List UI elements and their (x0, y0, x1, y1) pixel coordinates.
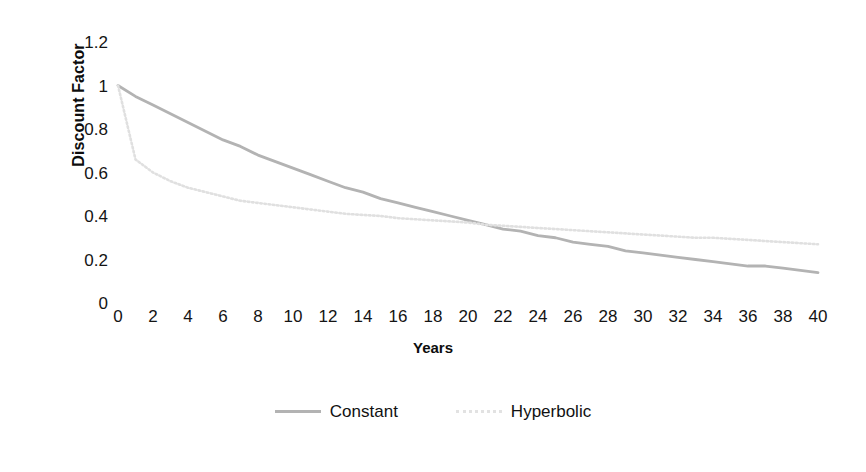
x-tick-label: 22 (485, 307, 521, 326)
x-tick-label: 0 (100, 307, 136, 326)
legend-label-hyperbolic: Hyperbolic (511, 402, 591, 421)
x-tick-label: 8 (240, 307, 276, 326)
x-tick-label: 16 (380, 307, 416, 326)
x-tick-label: 2 (135, 307, 171, 326)
x-tick-label: 4 (170, 307, 206, 326)
legend-entry-hyperbolic: Hyperbolic (456, 402, 591, 421)
x-tick-label: 34 (695, 307, 731, 326)
x-tick-label: 30 (625, 307, 661, 326)
x-tick-label: 6 (205, 307, 241, 326)
chart-legend: Constant Hyperbolic (0, 402, 866, 421)
x-tick-label: 14 (345, 307, 381, 326)
x-tick-label: 40 (800, 307, 836, 326)
x-tick-label: 10 (275, 307, 311, 326)
x-tick-label: 26 (555, 307, 591, 326)
x-tick-label: 32 (660, 307, 696, 326)
x-tick-label: 28 (590, 307, 626, 326)
legend-line-icon-constant (275, 410, 321, 413)
x-tick-label: 20 (450, 307, 486, 326)
y-tick-label: 1 (40, 78, 108, 95)
series-line-hyperbolic (118, 86, 818, 245)
y-tick-label: 1.2 (40, 34, 108, 51)
discount-factor-chart: Discount Factor 1.210.80.60.40.20 024681… (0, 0, 866, 472)
x-axis-tick-labels: 0246810121416182022242628303234363840 (0, 307, 866, 331)
series-layer (118, 86, 818, 273)
legend-line-icon-hyperbolic (456, 410, 502, 413)
legend-label-constant: Constant (330, 402, 398, 421)
x-tick-label: 36 (730, 307, 766, 326)
series-line-constant (118, 86, 818, 273)
x-axis-title: Years (0, 339, 866, 356)
x-tick-label: 38 (765, 307, 801, 326)
x-tick-label: 18 (415, 307, 451, 326)
y-tick-label: 0.6 (40, 165, 108, 182)
x-tick-label: 24 (520, 307, 556, 326)
y-tick-label: 0.4 (40, 208, 108, 225)
y-tick-label: 0.2 (40, 252, 108, 269)
y-tick-label: 0.8 (40, 121, 108, 138)
x-tick-label: 12 (310, 307, 346, 326)
legend-entry-constant: Constant (275, 402, 398, 421)
